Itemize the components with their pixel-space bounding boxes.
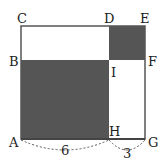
measure-AH: 6 — [61, 143, 69, 158]
shaded-square-DEFI — [109, 26, 145, 60]
label-E: E — [140, 11, 150, 26]
label-D: D — [104, 11, 114, 26]
label-G: G — [148, 135, 158, 150]
square-diagram: C D E B F I H A G 6 3 — [0, 0, 161, 164]
label-A: A — [8, 135, 19, 150]
label-B: B — [9, 54, 19, 69]
shaded-square-ABIH — [21, 60, 109, 139]
label-H: H — [109, 124, 120, 139]
label-F: F — [148, 54, 157, 69]
label-I: I — [111, 65, 116, 80]
label-C: C — [17, 11, 27, 26]
measure-HG: 3 — [123, 146, 131, 161]
